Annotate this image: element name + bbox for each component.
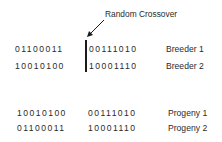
progeny-1-right-bits: 00111010: [88, 109, 137, 118]
progeny-2-left-bits: 01100011: [17, 124, 66, 133]
progeny-1-label: Progeny 1: [168, 109, 207, 118]
breeder-2-left-bits: 10010100: [15, 62, 65, 71]
breeder-2-right-bits: 10001110: [89, 62, 138, 71]
breeder-1-label: Breeder 1: [166, 45, 204, 54]
crossover-arrow: [0, 0, 222, 142]
crossover-point-line: [85, 40, 87, 72]
progeny-1-left-bits: 10010100: [17, 109, 67, 118]
random-crossover-label: Random Crossover: [105, 10, 177, 18]
breeder-1-left-bits: 01100011: [15, 45, 64, 54]
breeder-2-label: Breeder 2: [166, 62, 204, 71]
progeny-2-label: Progeny 2: [168, 124, 207, 133]
breeder-1-right-bits: 00111010: [89, 45, 138, 54]
progeny-2-right-bits: 10001110: [88, 124, 137, 133]
